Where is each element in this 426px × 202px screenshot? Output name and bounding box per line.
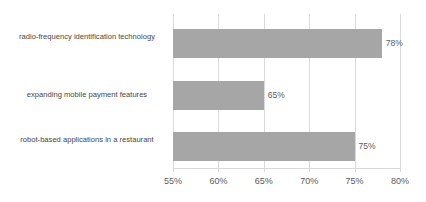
x-tick-label-65: 65%	[244, 175, 284, 187]
value-label-0: 78%	[386, 38, 403, 48]
bar-radio-frequency-identification-technology[interactable]	[173, 29, 382, 58]
bar-expanding-mobile-payment-features[interactable]	[173, 81, 264, 110]
tick-mark-60	[218, 168, 219, 172]
x-tick-label-80: 80%	[380, 175, 420, 187]
bar-chart: 78% 65% 75% radio-frequency identificati…	[0, 0, 426, 202]
value-label-1: 65%	[268, 90, 285, 100]
tick-mark-80	[400, 168, 401, 172]
tick-mark-65	[264, 168, 265, 172]
x-tick-label-60: 60%	[198, 175, 238, 187]
tick-mark-55	[173, 168, 174, 172]
category-label-1: expanding mobile payment features	[8, 90, 166, 101]
bar-robot-based-applications-in-a-restaurant[interactable]	[173, 132, 355, 161]
category-label-0: radio-frequency identification technolog…	[8, 32, 166, 43]
x-tick-label-75: 75%	[335, 175, 375, 187]
x-axis-line	[173, 168, 401, 169]
x-tick-label-70: 70%	[289, 175, 329, 187]
category-label-2: robot-based applications in a restaurant	[8, 135, 166, 146]
value-label-2: 75%	[359, 141, 376, 151]
tick-mark-75	[355, 168, 356, 172]
x-tick-label-55: 55%	[153, 175, 193, 187]
tick-mark-70	[309, 168, 310, 172]
